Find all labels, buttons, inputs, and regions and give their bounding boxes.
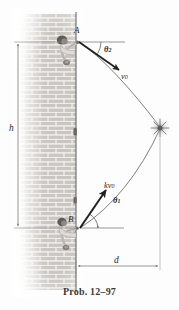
vector-label-v0: v0 [121, 72, 128, 81]
problem-figure: A B h d θ2 θ1 v0 kv0 Prob. 12–97 [0, 0, 179, 310]
theta2-subscript: 2 [108, 47, 111, 53]
theta1-subscript: 1 [117, 198, 120, 204]
kv0-symbol: kv [104, 180, 112, 190]
v0-arrow [79, 42, 119, 70]
vector-label-kv0: kv0 [104, 181, 115, 190]
figure-canvas [0, 0, 179, 310]
kv0-subscript: 0 [112, 183, 115, 189]
angle-label-theta2: θ2 [104, 45, 111, 54]
figure-caption: Prob. 12–97 [0, 286, 179, 297]
v0-subscript: 0 [125, 74, 128, 80]
kv0-arrow [80, 190, 106, 228]
velocity-vector-upper [79, 42, 125, 70]
impact-starburst [149, 117, 171, 139]
point-label-a: A [74, 26, 80, 35]
point-label-b: B [68, 215, 74, 224]
dimension-d [76, 138, 160, 274]
dimension-label-h: h [9, 124, 14, 134]
trajectory-lower [80, 129, 160, 228]
theta2-arc [98, 42, 101, 54]
trajectory-upper [79, 42, 160, 127]
angle-label-theta1: θ1 [113, 196, 120, 205]
dimension-label-d: d [114, 256, 119, 266]
